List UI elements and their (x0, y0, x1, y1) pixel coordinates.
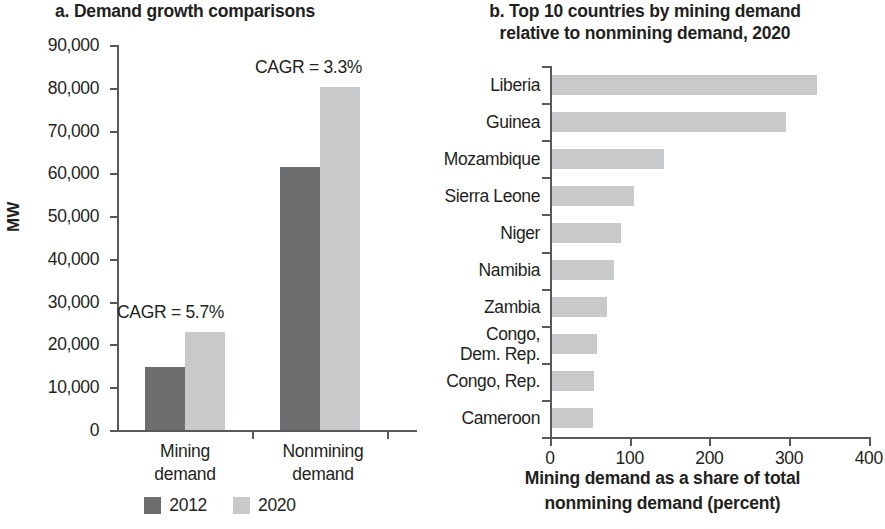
legend-swatch-icon-2020 (233, 497, 250, 514)
bar-liberia[interactable] (552, 75, 817, 95)
panel-a-y-tick: 80,000 (110, 88, 118, 90)
panel-b-y-tick (542, 289, 551, 291)
bar-row-cameroon[interactable]: Cameroon (552, 400, 593, 437)
panel-b-x-tick (709, 437, 711, 446)
panel-b-y-tick (542, 140, 551, 142)
panel-b-y-tick (542, 363, 551, 365)
panel-a-y-tick-label: 70,000 (48, 120, 99, 141)
panel-a-x-axis-line (117, 430, 417, 432)
bar-congo-dem-rep[interactable] (552, 334, 597, 354)
bar-congo-rep[interactable] (552, 371, 594, 391)
panel-a-y-tick-label: 90,000 (48, 35, 99, 56)
panel-a-y-tick: 10,000 (110, 387, 118, 389)
panel-a-y-tick: 0 (110, 430, 118, 432)
panel-b-y-tick (542, 214, 551, 216)
panel-a-plot-area: 90,000 80,000 70,000 60,000 50,000 40,00… (117, 45, 417, 432)
panel-a-category-tick (387, 430, 389, 439)
country-label-liberia: Liberia (490, 75, 540, 95)
country-label-niger: Niger (500, 223, 540, 243)
panel-a-title: a. Demand growth comparisons (0, 0, 370, 22)
country-label-sierra-leone: Sierra Leone (445, 186, 540, 206)
bar-niger[interactable] (552, 223, 621, 243)
bar-zambia[interactable] (552, 297, 607, 317)
panel-a-legend: 2012 2020 (0, 495, 440, 516)
panel-b-y-tick (542, 103, 551, 105)
legend-item-2012[interactable]: 2012 (144, 495, 207, 516)
legend-item-2020[interactable]: 2020 (233, 495, 296, 516)
panel-a-y-tick: 20,000 (110, 344, 118, 346)
panel-b-y-tick (542, 66, 551, 68)
panel-b-x-axis-title: Mining demand as a share of total nonmin… (440, 466, 885, 516)
panel-b-plot-area: Liberia Guinea Mozambique Sierra Leone N… (550, 66, 870, 439)
panel-a-y-axis-line (117, 45, 119, 432)
panel-b-title-line-1: b. Top 10 countries by mining demand (440, 0, 850, 22)
annotation-cagr-nonmining: CAGR = 3.3% (255, 57, 362, 78)
bar-row-mozambique[interactable]: Mozambique (552, 140, 664, 177)
country-label-zambia: Zambia (484, 297, 540, 317)
panel-b-x-tick (789, 437, 791, 446)
country-label-congo-rep: Congo, Rep. (446, 371, 540, 391)
panel-a-y-axis-title: MW (4, 202, 24, 232)
panel-b-x-tick (630, 437, 632, 446)
bar-row-guinea[interactable]: Guinea (552, 103, 786, 140)
country-label-guinea: Guinea (486, 112, 540, 132)
panel-a-y-tick-label: 60,000 (48, 163, 99, 184)
panel-b-top-countries: b. Top 10 countries by mining demand rel… (440, 0, 885, 529)
panel-a-y-tick: 70,000 (110, 131, 118, 133)
bar-namibia[interactable] (552, 260, 614, 280)
panel-b-x-tick (550, 437, 552, 446)
panel-a-y-tick: 90,000 (110, 45, 118, 47)
category-label-line: Nonmining demand (260, 440, 386, 486)
bar-row-namibia[interactable]: Namibia (552, 252, 614, 289)
legend-label-2012: 2012 (169, 495, 207, 516)
annotation-cagr-mining: CAGR = 5.7% (117, 302, 224, 323)
bar-row-sierra-leone[interactable]: Sierra Leone (552, 177, 634, 214)
panel-a-y-tick: 40,000 (110, 259, 118, 261)
panel-b-x-axis-title-line-2: nonmining demand (percent) (440, 491, 885, 516)
panel-a-demand-growth: a. Demand growth comparisons MW 90,000 8… (0, 0, 440, 529)
bar-sierra-leone[interactable] (552, 186, 634, 206)
panel-a-y-tick: 60,000 (110, 173, 118, 175)
panel-b-y-tick (542, 177, 551, 179)
panel-b-title-line-2: relative to nonmining demand, 2020 (440, 22, 850, 44)
figure-container: a. Demand growth comparisons MW 90,000 8… (0, 0, 885, 529)
legend-swatch-icon-2012 (144, 497, 161, 514)
panel-a-y-tick-label: 50,000 (48, 206, 99, 227)
panel-b-x-tick (869, 437, 871, 446)
panel-b-y-tick (542, 400, 551, 402)
country-label-cameroon: Cameroon (461, 408, 540, 428)
panel-b-y-tick (542, 252, 551, 254)
country-label-namibia: Namibia (479, 260, 540, 280)
panel-a-y-tick-label: 30,000 (48, 291, 99, 312)
bar-row-zambia[interactable]: Zambia (552, 289, 607, 326)
bar-mozambique[interactable] (552, 149, 664, 169)
bar-mining-2012[interactable] (145, 367, 185, 430)
panel-a-category-label-mining: Mining demand (125, 440, 245, 486)
panel-a-category-tick (252, 430, 254, 439)
panel-a-y-tick-label: 80,000 (48, 77, 99, 98)
legend-label-2020: 2020 (258, 495, 296, 516)
category-label-line: Mining demand (125, 440, 245, 486)
panel-a-category-label-nonmining: Nonmining demand (260, 440, 386, 486)
panel-a-y-tick: 50,000 (110, 216, 118, 218)
bar-mining-2020[interactable] (185, 332, 225, 430)
country-label-mozambique: Mozambique (444, 149, 540, 169)
bar-guinea[interactable] (552, 112, 786, 132)
panel-b-title: b. Top 10 countries by mining demand rel… (440, 0, 850, 44)
panel-a-y-tick-label: 0 (90, 420, 99, 441)
bar-cameroon[interactable] (552, 408, 593, 428)
panel-b-x-axis-title-line-1: Mining demand as a share of total (440, 466, 885, 491)
bar-row-congo-rep[interactable]: Congo, Rep. (552, 363, 594, 400)
panel-a-y-tick-label: 10,000 (48, 377, 99, 398)
panel-b-y-tick (542, 326, 551, 328)
panel-a-y-tick-label: 20,000 (48, 334, 99, 355)
bar-row-niger[interactable]: Niger (552, 214, 621, 251)
bar-row-congo-dem-rep[interactable]: Congo,Dem. Rep. (552, 326, 597, 363)
bar-row-liberia[interactable]: Liberia (552, 66, 817, 103)
bar-nonmining-2020[interactable] (320, 87, 360, 430)
panel-a-y-tick-label: 40,000 (48, 248, 99, 269)
bar-nonmining-2012[interactable] (280, 167, 320, 430)
country-label-congo-dem-rep: Congo,Dem. Rep. (460, 324, 540, 364)
